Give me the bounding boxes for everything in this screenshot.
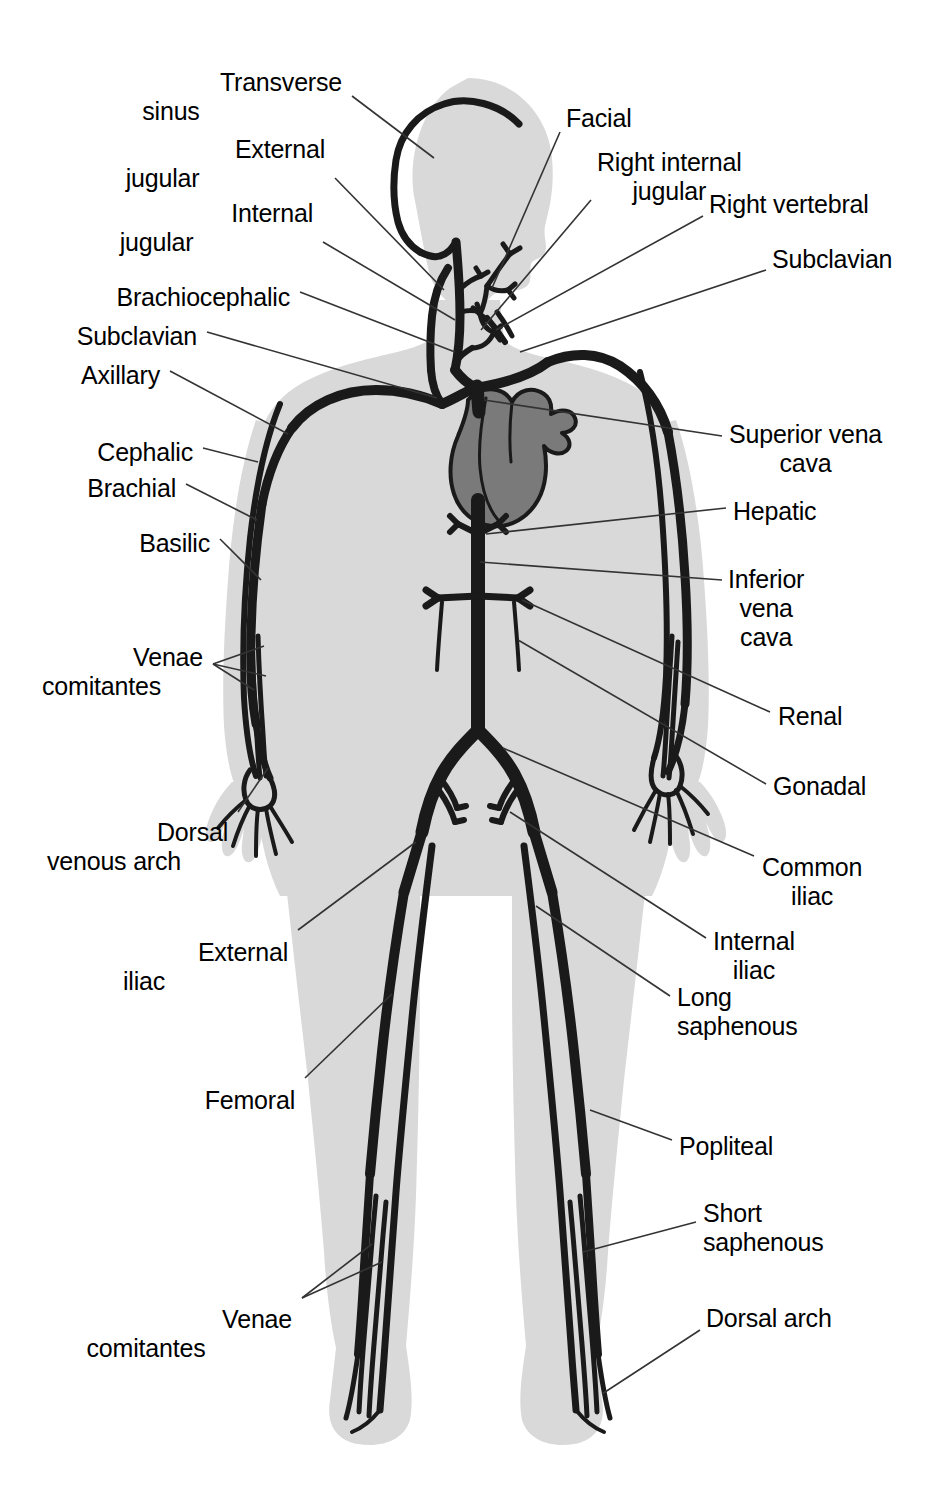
label-internal-iliac: Internaliliac <box>713 927 795 985</box>
label-brachiocephalic: Brachiocephalic <box>0 283 290 312</box>
label-line: Brachial <box>0 474 176 503</box>
label-line: Cephalic <box>0 438 193 467</box>
label-line: cava <box>728 623 804 652</box>
label-brachial: Brachial <box>0 474 176 503</box>
label-line: saphenous <box>677 1012 798 1041</box>
label-line: iliac <box>713 956 795 985</box>
label-line: cava <box>729 449 882 478</box>
leader-subclavian-right <box>520 270 766 352</box>
label-line: venous arch <box>0 847 228 876</box>
label-line: Femoral <box>0 1086 295 1115</box>
label-line: Facial <box>566 104 632 133</box>
label-renal: Renal <box>778 702 842 731</box>
label-line: Axillary <box>0 361 160 390</box>
label-line: Common <box>762 853 862 882</box>
label-right-vertebral: Right vertebral <box>709 190 869 219</box>
label-line: External <box>0 135 325 164</box>
label-cephalic: Cephalic <box>0 438 193 467</box>
leader-transverse-sinus <box>352 96 434 158</box>
leader-dorsal-arch <box>602 1330 700 1394</box>
label-line: Transverse <box>0 68 342 97</box>
label-line: Gonadal <box>773 772 866 801</box>
label-dorsal-arch: Dorsal arch <box>706 1304 832 1333</box>
label-external-iliac: Externaliliac <box>0 938 288 996</box>
label-line: comitantes <box>0 672 203 701</box>
vein-internal-jugular <box>455 242 460 370</box>
label-popliteal: Popliteal <box>679 1132 773 1161</box>
label-transverse-sinus: Transversesinus <box>0 68 342 126</box>
label-line: iliac <box>0 967 288 996</box>
label-line: Inferior <box>728 565 804 594</box>
venous-system-figure: TransversesinusExternaljugularInternalju… <box>0 0 930 1499</box>
label-subclavian-left: Subclavian <box>0 322 197 351</box>
label-subclavian-right: Subclavian <box>772 245 892 274</box>
label-line: Brachiocephalic <box>0 283 290 312</box>
label-line: Popliteal <box>679 1132 773 1161</box>
label-dorsal-venous-arch: Dorsalvenous arch <box>0 818 228 876</box>
label-line: Internal <box>713 927 795 956</box>
label-gonadal: Gonadal <box>773 772 866 801</box>
label-line: jugular <box>0 228 313 257</box>
label-line: iliac <box>762 882 862 911</box>
label-line: Right internal <box>597 148 742 177</box>
label-line: Venae <box>0 643 203 672</box>
label-line: Superior vena <box>729 420 882 449</box>
label-line: Basilic <box>0 529 210 558</box>
label-line: saphenous <box>703 1228 824 1257</box>
label-line: Hepatic <box>733 497 816 526</box>
label-line: Dorsal arch <box>706 1304 832 1333</box>
vein-superior-vena-cava <box>477 386 479 412</box>
label-line: Venae <box>0 1305 292 1334</box>
label-basilic: Basilic <box>0 529 210 558</box>
label-hepatic: Hepatic <box>733 497 816 526</box>
label-common-iliac: Commoniliac <box>762 853 862 911</box>
label-line: Renal <box>778 702 842 731</box>
label-line: Dorsal <box>0 818 228 847</box>
label-line: vena <box>728 594 804 623</box>
label-femoral: Femoral <box>0 1086 295 1115</box>
label-line: Long <box>677 983 798 1012</box>
label-venae-comitantes-leg: Venaecomitantes <box>0 1305 292 1363</box>
label-line: sinus <box>0 97 342 126</box>
label-line: Internal <box>0 199 313 228</box>
label-axillary: Axillary <box>0 361 160 390</box>
label-line: jugular <box>0 164 325 193</box>
label-line: comitantes <box>0 1334 292 1363</box>
label-external-jugular: Externaljugular <box>0 135 325 193</box>
label-line: External <box>0 938 288 967</box>
label-line: Right vertebral <box>709 190 869 219</box>
label-short-saphenous: Shortsaphenous <box>703 1199 824 1257</box>
label-line: Subclavian <box>772 245 892 274</box>
label-long-saphenous: Longsaphenous <box>677 983 798 1041</box>
label-line: Short <box>703 1199 824 1228</box>
leader-axillary <box>170 371 288 434</box>
label-venae-comitantes-arm: Venaecomitantes <box>0 643 203 701</box>
label-internal-jugular: Internaljugular <box>0 199 313 257</box>
label-facial: Facial <box>566 104 632 133</box>
label-line: Subclavian <box>0 322 197 351</box>
label-superior-vena-cava: Superior venacava <box>729 420 882 478</box>
label-inferior-vena-cava: Inferiorvenacava <box>728 565 804 652</box>
